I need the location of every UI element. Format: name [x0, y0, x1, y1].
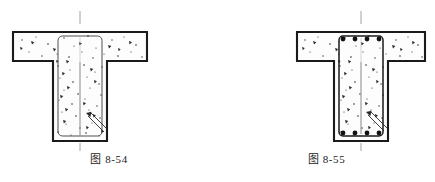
rebar-dot-bottom-3	[365, 131, 370, 136]
figure-sheet: 图 8-54	[0, 0, 435, 182]
rebar-dot-top-1	[341, 37, 346, 42]
figure-8-54-caption-number: 8-54	[105, 153, 128, 165]
figure-8-54-caption: 图 8-54	[0, 152, 218, 167]
rebar-dot-top-2	[353, 37, 358, 42]
rebar-dot-top-4	[377, 37, 382, 42]
figure-8-55-drawing	[218, 0, 435, 152]
figure-8-54-caption-cjk: 图	[90, 153, 102, 166]
rebar-dot-bottom-2	[353, 131, 358, 136]
figure-8-54: 图 8-54	[0, 0, 218, 182]
figure-8-55-caption-cjk: 图	[308, 153, 320, 166]
figure-8-55-caption-number: 8-55	[323, 153, 346, 165]
figure-8-55: 图 8-55	[218, 0, 435, 182]
rebar-dot-top-3	[365, 37, 370, 42]
rebar-dot-bottom-4	[377, 131, 382, 136]
rebar-dot-bottom-1	[341, 131, 346, 136]
figure-8-54-drawing	[0, 0, 218, 152]
figure-8-55-caption: 图 8-55	[218, 152, 435, 167]
